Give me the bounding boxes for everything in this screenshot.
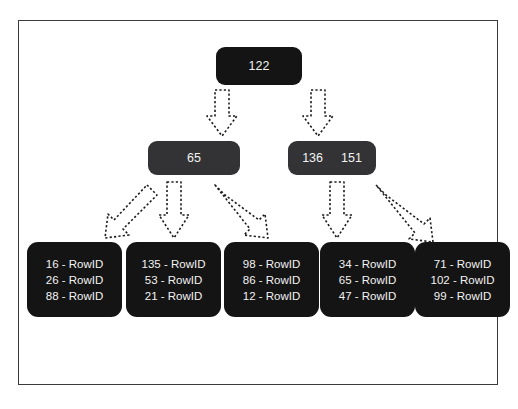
leaf-3-entry-2: 47 - RowID <box>339 288 397 304</box>
btree-leaf-node-3[interactable]: 34 - RowID 65 - RowID 47 - RowID <box>320 242 415 317</box>
btree-leaf-node-0[interactable]: 16 - RowID 26 - RowID 88 - RowID <box>27 242 122 317</box>
leaf-4-entry-2: 99 - RowID <box>434 288 492 304</box>
leaf-2-entry-1: 86 - RowID <box>243 272 301 288</box>
leaf-0-entry-2: 88 - RowID <box>46 288 104 304</box>
leaf-4-entry-1: 102 - RowID <box>431 272 495 288</box>
btree-internal-node-right[interactable]: 136 151 <box>288 141 376 175</box>
internal-left-key-0: 65 <box>187 151 201 165</box>
btree-root-node[interactable]: 122 <box>216 47 302 85</box>
leaf-1-entry-1: 53 - RowID <box>145 272 203 288</box>
leaf-2-entry-2: 12 - RowID <box>243 288 301 304</box>
internal-right-key-0: 136 <box>302 151 323 165</box>
leaf-4-entry-0: 71 - RowID <box>434 256 492 272</box>
leaf-0-entry-1: 26 - RowID <box>46 272 104 288</box>
root-node-keys: 122 <box>249 59 270 73</box>
btree-leaf-node-2[interactable]: 98 - RowID 86 - RowID 12 - RowID <box>224 242 319 317</box>
btree-leaf-node-4[interactable]: 71 - RowID 102 - RowID 99 - RowID <box>415 242 510 317</box>
leaf-0-entry-0: 16 - RowID <box>46 256 104 272</box>
leaf-3-entry-0: 34 - RowID <box>339 256 397 272</box>
leaf-2-entry-0: 98 - RowID <box>243 256 301 272</box>
internal-left-keys: 65 <box>187 151 201 165</box>
btree-internal-node-left[interactable]: 65 <box>148 141 240 175</box>
leaf-3-entry-1: 65 - RowID <box>339 272 397 288</box>
internal-right-key-1: 151 <box>341 151 362 165</box>
leaf-1-entry-2: 21 - RowID <box>145 288 203 304</box>
btree-diagram: 122 65 136 151 16 - RowID 26 - RowID 88 … <box>0 0 518 409</box>
internal-right-keys: 136 151 <box>302 151 362 165</box>
btree-leaf-node-1[interactable]: 135 - RowID 53 - RowID 21 - RowID <box>126 242 221 317</box>
leaf-1-entry-0: 135 - RowID <box>142 256 206 272</box>
